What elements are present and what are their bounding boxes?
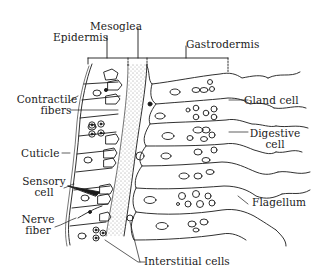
cuticle-outline <box>69 64 93 245</box>
label-nerve-fiber: Nerve fiber <box>20 214 56 236</box>
label-epidermis: Epidermis <box>53 32 108 43</box>
label-sensory-cell-line2: cell <box>22 187 66 198</box>
hydra-body-wall-diagram: Mesoglea Epidermis Gastrodermis Contract… <box>0 0 330 274</box>
label-cuticle: Cuticle <box>21 148 60 159</box>
label-contractile-fibers: Contractile fibers <box>16 94 78 116</box>
label-gastrodermis: Gastrodermis <box>186 39 259 50</box>
label-flagellum: Flagellum <box>252 197 306 208</box>
label-interstitial-cells: Interstitial cells <box>144 256 230 267</box>
gastrodermal-cells <box>127 66 310 246</box>
layer-bracket <box>88 28 228 72</box>
label-gland-cell: Gland cell <box>244 95 299 106</box>
label-digestive-cell: Digestive cell <box>248 128 302 150</box>
label-sensory-cell: Sensory cell <box>22 176 66 198</box>
label-contractile-fibers-line2: fibers <box>16 105 78 116</box>
label-nerve-fiber-line2: fiber <box>20 225 56 236</box>
label-digestive-cell-line2: cell <box>248 139 302 150</box>
